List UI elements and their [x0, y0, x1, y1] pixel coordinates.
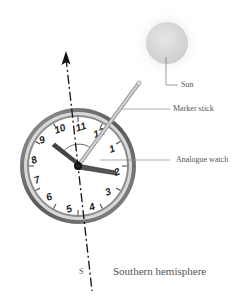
- hemisphere-caption: Southern hemisphere: [113, 265, 206, 277]
- watch-compass-diagram: 1 2 3 4 5 6 7 8 9 10 11 12: [0, 0, 242, 307]
- south-label: S: [79, 267, 83, 276]
- marker-stick-label: Marker stick: [173, 104, 214, 113]
- sun-icon: [133, 9, 201, 77]
- sun-label: Sun: [181, 80, 193, 89]
- analogue-watch-label: Analogue watch: [176, 155, 228, 164]
